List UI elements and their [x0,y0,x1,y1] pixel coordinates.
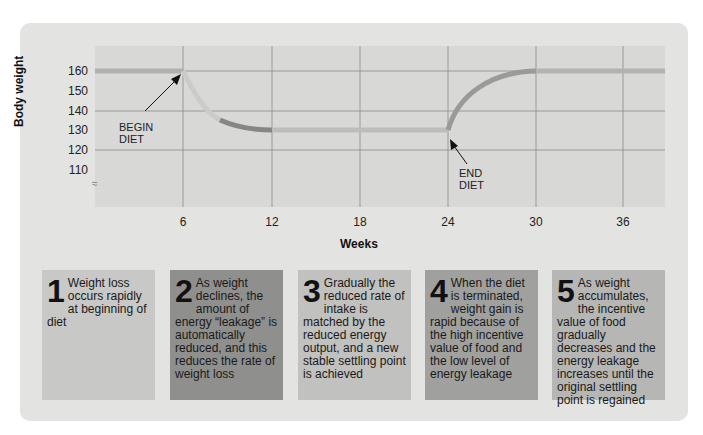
begin-diet-label: BEGIN DIET [119,121,153,145]
y-tick-160: 160 [58,64,88,78]
phase-box-5: 5 As weight accumulates, the incentive v… [552,270,665,400]
begin-diet-line-2: DIET [119,133,153,145]
horizontal-gridlines [95,71,665,150]
x-tick-18: 18 [345,215,375,229]
phase-box-2: 2 As weight declines, the amount of ener… [170,270,283,400]
x-tick-6: 6 [168,215,198,229]
phase-box-4: 4 When the diet is terminated, weight ga… [425,270,538,400]
x-tick-12: 12 [257,215,287,229]
phase-number-1: 1 [47,278,65,304]
end-diet-label: END DIET [459,167,484,191]
phase-1-segment [183,71,220,120]
x-axis-label: Weeks [340,237,378,251]
phase-4-segment [448,71,536,130]
y-axis-label: Body weight [12,56,26,127]
end-diet-line-2: DIET [459,179,484,191]
begin-diet-arrow [145,74,181,111]
phase-number-4: 4 [430,278,448,304]
begin-diet-line-1: BEGIN [119,121,153,133]
x-tick-24: 24 [433,215,463,229]
y-tick-120: 120 [58,143,88,157]
end-diet-line-1: END [459,167,484,179]
phase-number-5: 5 [557,278,575,304]
phase-number-3: 3 [303,278,321,304]
phase-box-3: 3 Gradually the reduced rate of intake i… [298,270,411,400]
end-diet-arrow [450,139,467,164]
y-tick-150: 150 [58,84,88,98]
y-tick-140: 140 [58,104,88,118]
phase-number-2: 2 [175,278,193,304]
y-tick-110: 110 [58,163,88,177]
x-tick-36: 36 [608,215,638,229]
axis-break-icon: ≈ [92,178,98,189]
phase-2-segment [220,120,272,130]
x-tick-30: 30 [521,215,551,229]
weight-curve [95,71,665,130]
y-tick-130: 130 [58,123,88,137]
phase-box-1: 1 Weight loss occurs rapidly at beginnin… [42,270,155,400]
